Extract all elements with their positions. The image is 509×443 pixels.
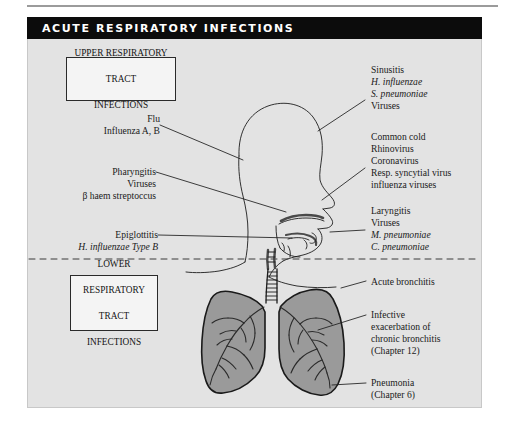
lower-box-line4: INFECTIONS xyxy=(71,336,157,349)
lower-box-line1: LOWER xyxy=(71,258,157,271)
label-epiglottitis-line-1: Epiglottitis xyxy=(115,229,158,240)
leader-lines-left xyxy=(156,125,292,238)
trachea xyxy=(266,269,277,303)
label-epiglottitis-line-2: H. influenzae Type B xyxy=(78,241,158,252)
label-infective-exacerbation-line-2: exacerbation of xyxy=(371,321,430,332)
lower-respiratory-tract-box: LOWER RESPIRATORY TRACT INFECTIONS xyxy=(70,275,158,331)
label-infective-exacerbation: Infectiveexacerbation ofchronic bronchit… xyxy=(371,309,441,357)
label-infective-exacerbation-line-1: Infective xyxy=(371,309,405,320)
upper-respiratory-tract-box: UPPER RESPIRATORY TRACT INFECTIONS xyxy=(66,57,176,101)
label-flu-line-1: Flu xyxy=(147,113,160,124)
label-flu: FluInfluenza A, B xyxy=(20,113,160,137)
label-common-cold: Common coldRhinovirusCoronavirusResp. sy… xyxy=(371,131,451,191)
lungs xyxy=(202,289,345,395)
label-common-cold-line-3: Coronavirus xyxy=(371,155,418,166)
label-laryngitis: LaryngitisVirusesM. pneumoniaeC. pneumon… xyxy=(371,205,431,253)
nasal-oral-cavity xyxy=(276,215,324,257)
label-sinusitis-line-3: S. pneumoniae xyxy=(371,88,428,99)
label-pneumonia-line-2: (Chapter 6) xyxy=(371,389,415,400)
label-pharyngitis-line-2: Viruses xyxy=(127,178,156,189)
label-common-cold-line-4: Resp. syncytial virus xyxy=(371,167,451,178)
label-pneumonia: Pneumonia(Chapter 6) xyxy=(371,377,415,401)
label-acute-bronchitis: Acute bronchitis xyxy=(371,276,435,288)
label-infective-exacerbation-line-4: (Chapter 12) xyxy=(371,345,420,356)
label-sinusitis-line-4: Viruses xyxy=(371,100,400,111)
label-sinusitis-line-2: H. influenzae xyxy=(371,76,422,87)
label-pharyngitis-line-1: Pharyngitis xyxy=(112,166,156,177)
upper-box-line2: TRACT xyxy=(67,73,175,86)
label-common-cold-line-5: influenza viruses xyxy=(371,179,436,190)
lower-box-line3: TRACT xyxy=(71,310,157,323)
label-pharyngitis-line-3: β haem streptoccus xyxy=(82,190,156,201)
label-pneumonia-line-1: Pneumonia xyxy=(371,377,414,388)
label-laryngitis-line-4: C. pneumoniae xyxy=(371,241,429,252)
upper-box-line3: INFECTIONS xyxy=(67,99,175,112)
label-pharyngitis: PharyngitisVirusesβ haem streptoccus xyxy=(16,166,156,202)
label-flu-line-2: Influenza A, B xyxy=(104,125,160,136)
lower-box-line2: RESPIRATORY xyxy=(71,284,157,297)
label-laryngitis-line-2: Viruses xyxy=(371,217,400,228)
label-infective-exacerbation-line-3: chronic bronchitis xyxy=(371,333,441,344)
label-sinusitis: SinusitisH. influenzaeS. pneumoniaeVirus… xyxy=(371,64,428,112)
upper-box-line1: UPPER RESPIRATORY xyxy=(67,47,175,60)
head-profile-outline xyxy=(186,103,336,287)
label-sinusitis-line-1: Sinusitis xyxy=(371,64,404,75)
label-acute-bronchitis-line-1: Acute bronchitis xyxy=(371,276,435,287)
label-common-cold-line-1: Common cold xyxy=(371,131,426,142)
figure-acute-respiratory-infections: ACUTE RESPIRATORY INFECTIONS xyxy=(0,0,509,443)
label-common-cold-line-2: Rhinovirus xyxy=(371,143,414,154)
label-epiglottitis: EpiglottitisH. influenzae Type B xyxy=(16,229,158,253)
label-laryngitis-line-1: Laryngitis xyxy=(371,205,410,216)
label-laryngitis-line-3: M. pneumoniae xyxy=(371,229,431,240)
